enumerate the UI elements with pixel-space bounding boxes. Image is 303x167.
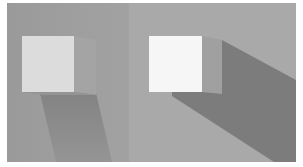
left-cube-face [22, 36, 74, 92]
left-cube-side [74, 36, 96, 95]
left-panel [7, 3, 129, 162]
right-cube-face [149, 36, 202, 92]
illustration [0, 0, 303, 167]
right-panel [129, 3, 296, 162]
right-cube-side [202, 36, 222, 94]
